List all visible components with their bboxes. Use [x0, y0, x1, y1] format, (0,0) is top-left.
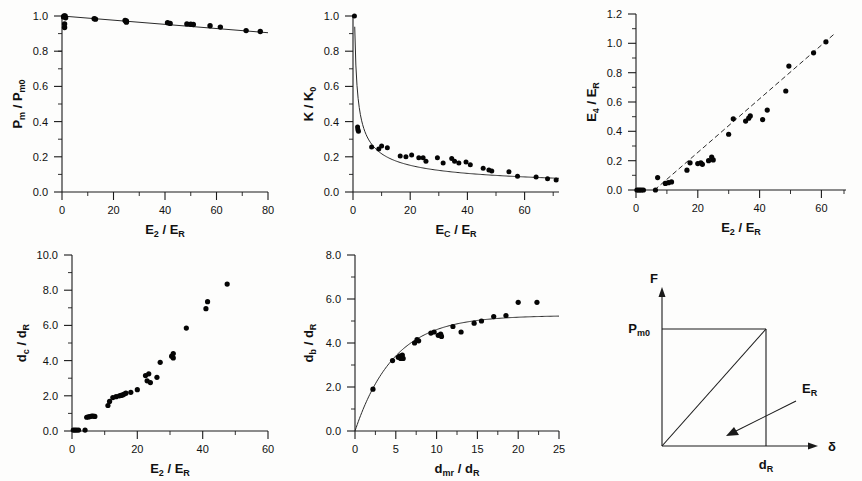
data-point: [765, 107, 770, 112]
panel-f-svg: F δ Pm0 dR ER: [574, 241, 862, 481]
data-point: [369, 145, 374, 150]
panel-d-xticklabels: 0 20 40 60: [69, 443, 274, 455]
data-point: [655, 175, 660, 180]
data-point: [711, 157, 716, 162]
data-point: [62, 25, 67, 30]
data-point: [481, 166, 486, 171]
data-point: [403, 154, 408, 159]
data-point: [207, 23, 212, 28]
data-point: [128, 390, 133, 395]
data-point: [783, 88, 788, 93]
data-point: [545, 176, 550, 181]
data-point: [687, 160, 692, 165]
data-point: [491, 314, 496, 319]
svg-text:0.6: 0.6: [607, 96, 622, 108]
panel-c-yticklabels: 1.2 1.0 0.8 0.6 0.4 0.2 0.0: [607, 8, 622, 196]
svg-text:20: 20: [107, 204, 119, 216]
data-point: [506, 169, 511, 174]
data-point: [534, 300, 539, 305]
svg-text:0.8: 0.8: [33, 45, 48, 57]
data-point: [123, 391, 128, 396]
schematic-pm0-label: Pm0: [628, 321, 650, 338]
panel-c-xaxis-title: E2 / ER: [721, 220, 761, 237]
loading-ramp-line: [662, 329, 766, 446]
svg-text:0: 0: [352, 443, 358, 455]
svg-text:1.0: 1.0: [33, 10, 48, 22]
panel-e-xaxis-title: dmr / dR: [435, 461, 480, 478]
svg-text:20: 20: [512, 443, 524, 455]
svg-text:0: 0: [633, 202, 639, 214]
panel-a-yaxis: [54, 16, 62, 192]
data-point: [441, 160, 446, 165]
svg-text:1.2: 1.2: [607, 8, 622, 20]
data-point: [432, 329, 437, 334]
svg-text:6.0: 6.0: [43, 319, 58, 331]
data-point: [370, 387, 375, 392]
data-point: [653, 187, 658, 192]
y-axis-arrowhead: [659, 287, 666, 297]
svg-text:80: 80: [262, 204, 274, 216]
svg-text:0.0: 0.0: [324, 186, 339, 198]
data-point: [93, 16, 98, 21]
data-point: [158, 360, 163, 365]
data-point: [823, 39, 828, 44]
data-point: [468, 162, 473, 167]
panel-e4-vs-e2: 1.2 1.0 0.8 0.6 0.4 0.2 0.0 0 20 40 60 E…: [574, 0, 861, 240]
schematic-force-axis-label: F: [650, 271, 658, 286]
data-point: [379, 143, 384, 148]
panel-b-xaxis-title: EC / ER: [435, 222, 477, 239]
data-point: [435, 155, 440, 160]
panel-e-yticklabels: 8.0 6.0 4.0 2.0 0.0: [326, 249, 341, 437]
svg-text:0.0: 0.0: [33, 186, 48, 198]
panel-e-xaxis: [355, 431, 559, 439]
panel-e-yaxis: [347, 255, 355, 431]
schematic-dr-label: dR: [759, 457, 774, 474]
data-point: [416, 155, 421, 160]
data-point: [748, 113, 753, 118]
data-point: [203, 306, 208, 311]
data-point: [641, 187, 646, 192]
data-point: [464, 160, 469, 165]
svg-text:0.4: 0.4: [324, 116, 339, 128]
schematic-displacement-axis-label: δ: [828, 439, 836, 454]
panel-a-xaxis-title: E2 / ER: [145, 222, 185, 239]
svg-text:0: 0: [59, 204, 65, 216]
svg-text:4.0: 4.0: [326, 337, 341, 349]
svg-text:40: 40: [461, 204, 473, 216]
panel-dc-vs-e2: 10.0 8.0 6.0 4.0 2.0 0.0 0 20 40 60 E2 /…: [0, 241, 287, 481]
data-point: [401, 356, 406, 361]
data-point: [684, 168, 689, 173]
svg-text:0.2: 0.2: [324, 151, 339, 163]
panel-pm-vs-e2: 1.0 0.8 0.6 0.4 0.2 0.0 0 20 40 60 80 E2…: [0, 0, 287, 240]
svg-text:15: 15: [471, 443, 483, 455]
data-point: [731, 116, 736, 121]
panel-b-fitline: [355, 27, 559, 179]
panel-a-svg: 1.0 0.8 0.6 0.4 0.2 0.0 0 20 40 60 80 E2…: [0, 0, 287, 240]
svg-text:1.0: 1.0: [607, 37, 622, 49]
svg-text:0.2: 0.2: [607, 155, 622, 167]
data-point: [385, 145, 390, 150]
panel-d-xaxis-title: E2 / ER: [150, 461, 190, 478]
svg-text:0.0: 0.0: [326, 425, 341, 437]
schematic-er-label: ER: [802, 381, 818, 398]
data-point: [423, 159, 428, 164]
data-point: [534, 175, 539, 180]
panel-e-xticklabels: 0 5 10 15 20 25: [352, 443, 565, 455]
panel-d-yaxis-title: dc / dR: [14, 323, 31, 362]
panel-b-datapoints: [352, 14, 559, 183]
svg-text:20: 20: [131, 443, 143, 455]
data-point: [515, 174, 520, 179]
data-point: [554, 178, 559, 183]
data-point: [456, 160, 461, 165]
svg-text:6.0: 6.0: [326, 293, 341, 305]
panel-e-yaxis-title: db / dR: [301, 323, 318, 362]
energy-callout-line: [732, 401, 796, 433]
data-point: [786, 63, 791, 68]
svg-text:0.0: 0.0: [607, 184, 622, 196]
data-point: [124, 19, 129, 24]
data-point: [63, 15, 68, 20]
svg-text:10.0: 10.0: [37, 249, 58, 261]
panel-b-svg: 1.0 0.8 0.6 0.4 0.2 0.0 0 20 40 60 EC / …: [287, 0, 574, 240]
data-point: [154, 375, 159, 380]
svg-text:25: 25: [553, 443, 565, 455]
